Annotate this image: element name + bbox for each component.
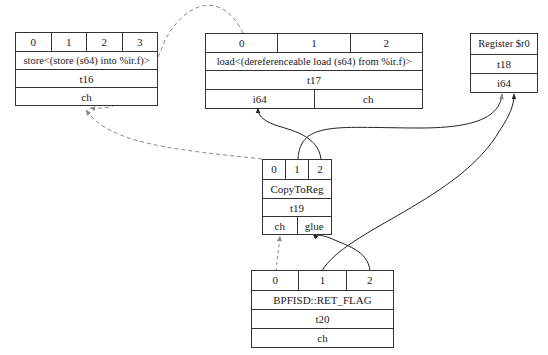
node-id: t19 — [263, 199, 331, 216]
node-label: store<(store (s64) into %ir.f)> — [16, 52, 157, 69]
node-id: t16 — [16, 70, 157, 87]
port-2[interactable]: 2 — [350, 34, 422, 52]
output-ch[interactable]: ch — [252, 329, 393, 347]
port-0[interactable]: 0 — [16, 33, 51, 51]
dag-diagram: 0 1 2 3 store<(store (s64) into %ir.f)> … — [0, 0, 548, 355]
port-2[interactable]: 2 — [346, 271, 393, 290]
output-glue[interactable]: glue — [297, 217, 332, 234]
output-i64[interactable]: i64 — [471, 74, 537, 92]
node-id: t20 — [252, 310, 393, 328]
node-t17[interactable]: 0 1 2 load<(dereferenceable load (s64) f… — [205, 33, 423, 109]
port-0[interactable]: 0 — [206, 34, 277, 52]
node-label: BPFISD::RET_FLAG — [252, 291, 393, 309]
port-1[interactable]: 1 — [285, 160, 308, 179]
node-label: CopyToReg — [263, 180, 331, 198]
output-ch[interactable]: ch — [263, 217, 297, 234]
edge-t20-2-to-t19-glue — [313, 234, 370, 271]
node-t18[interactable]: Register $r0 t18 i64 — [470, 33, 538, 93]
output-i64[interactable]: i64 — [206, 90, 314, 108]
node-label: load<(dereferenceable load (s64) from %i… — [206, 53, 422, 70]
port-0[interactable]: 0 — [263, 160, 285, 179]
output-ch[interactable]: ch — [16, 88, 157, 105]
edge-t20-0-to-t19-ch — [276, 236, 280, 271]
port-0[interactable]: 0 — [252, 271, 298, 290]
port-3[interactable]: 3 — [122, 33, 158, 51]
output-ch[interactable]: ch — [314, 90, 423, 108]
node-t16[interactable]: 0 1 2 3 store<(store (s64) into %ir.f)> … — [15, 32, 158, 106]
node-t20[interactable]: 0 1 2 BPFISD::RET_FLAG t20 ch — [251, 270, 394, 348]
node-id: t18 — [471, 55, 537, 73]
port-2[interactable]: 2 — [86, 33, 122, 51]
port-1[interactable]: 1 — [51, 33, 87, 51]
edge-t19-2-to-t17-i64 — [258, 108, 321, 159]
edge-t20-1-to-t18-i64 — [322, 94, 514, 271]
ports-row: 0 1 2 3 — [16, 33, 157, 51]
node-label: Register $r0 — [471, 34, 537, 54]
node-id: t17 — [206, 71, 422, 89]
port-1[interactable]: 1 — [298, 271, 345, 290]
port-1[interactable]: 1 — [277, 34, 349, 52]
node-t19[interactable]: 0 1 2 CopyToReg t19 ch glue — [262, 159, 332, 235]
edge-t19-0-to-t16-ch — [86, 110, 262, 159]
port-2[interactable]: 2 — [308, 160, 331, 179]
